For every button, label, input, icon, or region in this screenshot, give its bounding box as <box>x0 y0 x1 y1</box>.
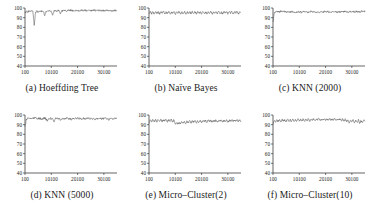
subfigure-b: 405060708090100100101002010030100 (b) Na… <box>124 2 248 109</box>
svg-text:60: 60 <box>17 44 23 50</box>
subfigure-f: 405060708090100100101002010030100 (f) Mi… <box>248 109 372 216</box>
svg-text:100: 100 <box>269 69 277 75</box>
svg-text:70: 70 <box>141 34 147 40</box>
svg-text:20100: 20100 <box>71 176 84 182</box>
plot-f-svg: 405060708090100100101002010030100 <box>251 109 369 189</box>
plot-c-svg: 405060708090100100101002010030100 <box>251 2 369 82</box>
svg-text:100: 100 <box>21 69 29 75</box>
plot-e: 405060708090100100101002010030100 <box>127 109 245 189</box>
subfigure-e-caption: (e) Micro–Cluster(2) <box>145 190 226 201</box>
svg-text:90: 90 <box>17 15 23 21</box>
svg-text:100: 100 <box>138 5 146 11</box>
svg-text:50: 50 <box>141 53 147 59</box>
svg-text:10100: 10100 <box>169 69 182 75</box>
svg-text:90: 90 <box>141 122 147 128</box>
svg-text:20100: 20100 <box>195 176 208 182</box>
svg-text:80: 80 <box>17 24 23 30</box>
svg-text:90: 90 <box>265 15 271 21</box>
plot-a-svg: 405060708090100100101002010030100 <box>3 2 121 82</box>
svg-text:50: 50 <box>265 160 271 166</box>
plot-d: 405060708090100100101002010030100 <box>3 109 121 189</box>
subfigure-d: 405060708090100100101002010030100 (d) KN… <box>0 109 124 216</box>
svg-text:50: 50 <box>17 53 23 59</box>
plot-a: 405060708090100100101002010030100 <box>3 2 121 82</box>
plot-b-svg: 405060708090100100101002010030100 <box>127 2 245 82</box>
svg-text:50: 50 <box>141 160 147 166</box>
svg-text:20100: 20100 <box>195 69 208 75</box>
svg-text:70: 70 <box>265 34 271 40</box>
svg-text:30100: 30100 <box>345 176 358 182</box>
svg-text:20100: 20100 <box>319 176 332 182</box>
subfigure-c: 405060708090100100101002010030100 (c) KN… <box>248 2 372 109</box>
svg-text:80: 80 <box>265 131 271 137</box>
svg-text:90: 90 <box>265 122 271 128</box>
svg-text:10100: 10100 <box>293 176 306 182</box>
plot-c: 405060708090100100101002010030100 <box>251 2 369 82</box>
svg-text:70: 70 <box>265 141 271 147</box>
svg-text:100: 100 <box>21 176 29 182</box>
plot-e-svg: 405060708090100100101002010030100 <box>127 109 245 189</box>
svg-text:70: 70 <box>17 141 23 147</box>
svg-text:80: 80 <box>265 24 271 30</box>
subfigure-a-caption: (a) Hoeffding Tree <box>26 83 99 94</box>
svg-text:60: 60 <box>265 151 271 157</box>
subfigure-c-caption: (c) KNN (2000) <box>279 83 342 94</box>
plot-d-svg: 405060708090100100101002010030100 <box>3 109 121 189</box>
svg-text:100: 100 <box>262 112 270 118</box>
svg-text:10100: 10100 <box>45 176 58 182</box>
svg-text:30100: 30100 <box>97 69 110 75</box>
plot-b: 405060708090100100101002010030100 <box>127 2 245 82</box>
svg-text:70: 70 <box>17 34 23 40</box>
svg-text:100: 100 <box>145 69 153 75</box>
svg-text:80: 80 <box>141 24 147 30</box>
svg-text:10100: 10100 <box>169 176 182 182</box>
svg-text:60: 60 <box>141 151 147 157</box>
svg-text:10100: 10100 <box>293 69 306 75</box>
svg-text:100: 100 <box>262 5 270 11</box>
svg-text:80: 80 <box>17 131 23 137</box>
svg-text:30100: 30100 <box>97 176 110 182</box>
subfigure-a: 405060708090100100101002010030100 (a) Ho… <box>0 2 124 109</box>
plot-f: 405060708090100100101002010030100 <box>251 109 369 189</box>
subfigure-b-caption: (b) Naïve Bayes <box>154 83 217 94</box>
svg-text:100: 100 <box>14 5 22 11</box>
svg-text:90: 90 <box>141 15 147 21</box>
subfigure-f-caption: (f) Micro–Cluster(10) <box>267 190 352 201</box>
svg-text:60: 60 <box>17 151 23 157</box>
svg-text:20100: 20100 <box>71 69 84 75</box>
svg-text:60: 60 <box>141 44 147 50</box>
subfigure-e: 405060708090100100101002010030100 (e) Mi… <box>124 109 248 216</box>
svg-text:100: 100 <box>14 112 22 118</box>
svg-text:20100: 20100 <box>319 69 332 75</box>
svg-text:30100: 30100 <box>221 69 234 75</box>
svg-text:90: 90 <box>17 122 23 128</box>
svg-text:30100: 30100 <box>221 176 234 182</box>
figure-subplot-grid: 405060708090100100101002010030100 (a) Ho… <box>0 0 372 216</box>
svg-text:30100: 30100 <box>345 69 358 75</box>
svg-text:60: 60 <box>265 44 271 50</box>
svg-text:100: 100 <box>138 112 146 118</box>
subfigure-d-caption: (d) KNN (5000) <box>30 190 93 201</box>
svg-text:10100: 10100 <box>45 69 58 75</box>
svg-text:100: 100 <box>269 176 277 182</box>
svg-text:100: 100 <box>145 176 153 182</box>
svg-text:70: 70 <box>141 141 147 147</box>
svg-text:50: 50 <box>265 53 271 59</box>
svg-text:80: 80 <box>141 131 147 137</box>
svg-text:50: 50 <box>17 160 23 166</box>
